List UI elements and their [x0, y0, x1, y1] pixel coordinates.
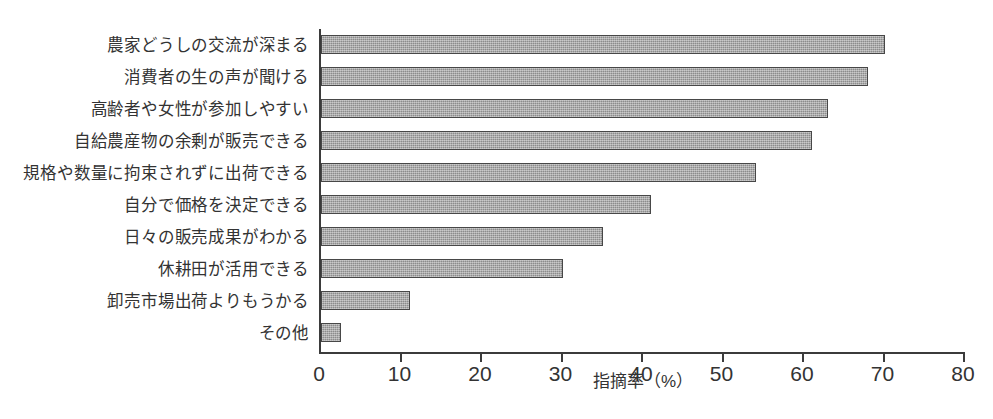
x-axis-tick [963, 354, 965, 362]
x-axis-tick [722, 354, 724, 362]
bar-series [321, 29, 967, 352]
bar [321, 291, 410, 310]
bar-row [321, 61, 967, 93]
bar [321, 195, 651, 214]
x-axis-title: 指摘率（%） [319, 367, 967, 392]
category-label: 自給農産物の余剰が販売できる [0, 125, 315, 157]
bar-row [321, 189, 967, 221]
bar-row [321, 221, 967, 253]
bar-row [321, 317, 967, 349]
x-axis-tick [480, 354, 482, 362]
category-label: 日々の販売成果がわかる [0, 221, 315, 253]
bar-row [321, 125, 967, 157]
bar-row [321, 29, 967, 61]
bar-row [321, 157, 967, 189]
bar-chart: 農家どうしの交流が深まる 消費者の生の声が聞ける 高齢者や女性が参加しやすい 自… [0, 0, 993, 419]
category-label: 卸売市場出荷よりもうかる [0, 285, 315, 317]
category-label: 休耕田が活用できる [0, 253, 315, 285]
bar [321, 227, 603, 246]
category-label: 自分で価格を決定できる [0, 189, 315, 221]
category-axis-labels: 農家どうしの交流が深まる 消費者の生の声が聞ける 高齢者や女性が参加しやすい 自… [0, 29, 315, 349]
bar [321, 259, 563, 278]
bar [321, 99, 828, 118]
bar [321, 131, 812, 150]
category-label: 高齢者や女性が参加しやすい [0, 93, 315, 125]
x-axis-tick [400, 354, 402, 362]
bar-row [321, 93, 967, 125]
category-label: その他 [0, 317, 315, 349]
category-label: 消費者の生の声が聞ける [0, 61, 315, 93]
x-axis-tick [802, 354, 804, 362]
bar-row [321, 253, 967, 285]
bar [321, 35, 885, 54]
bar [321, 67, 868, 86]
x-axis-tick [561, 354, 563, 362]
x-axis-tick [641, 354, 643, 362]
plot-area [319, 29, 967, 352]
bar [321, 163, 756, 182]
x-axis-tick [883, 354, 885, 362]
bar-row [321, 285, 967, 317]
bar [321, 323, 341, 342]
category-label: 規格や数量に拘束されずに出荷できる [0, 157, 315, 189]
category-label: 農家どうしの交流が深まる [0, 29, 315, 61]
